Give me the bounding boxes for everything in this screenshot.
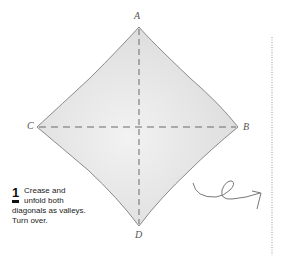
vertex-label-a: A <box>134 11 140 21</box>
step-instruction: 1 Crease and unfold both diagonals as va… <box>12 186 122 226</box>
step-number-underline <box>12 200 19 203</box>
instruction-line-4: Turn over. <box>12 216 122 226</box>
turn-over-arrow-icon <box>193 181 261 209</box>
instruction-line-1: Crease and <box>12 186 122 196</box>
vertex-label-d: D <box>135 230 142 240</box>
instruction-line-3: diagonals as valleys. <box>12 206 122 216</box>
vertex-label-c: C <box>27 121 34 131</box>
vertex-label-b: B <box>243 122 249 132</box>
instruction-line-2: unfold both <box>12 196 122 206</box>
step-number: 1 <box>12 186 19 199</box>
